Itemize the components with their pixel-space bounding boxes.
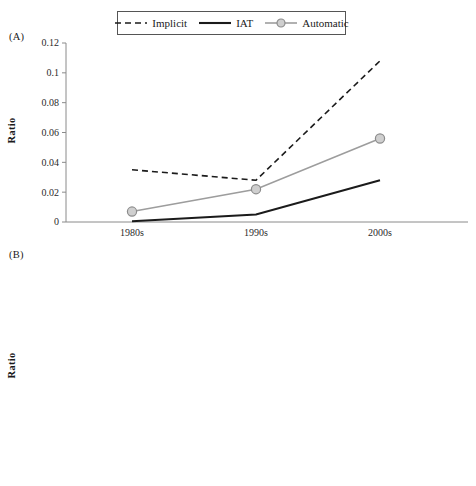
panel-a-y-axis-title: Ratio (6, 118, 17, 144)
panel-a-axes (66, 43, 468, 222)
data-point-marker-automatic (251, 185, 260, 194)
series-line-automatic (132, 138, 380, 211)
panel-a-x-tick-labels: 1980s1990s2000s (120, 227, 392, 238)
data-point-marker-automatic (127, 207, 136, 216)
x-tick-label: 1980s (120, 227, 144, 238)
panel-b-y-axis-title: Ratio (6, 353, 17, 379)
x-tick-label: 1990s (244, 227, 268, 238)
x-tick-label: 2000s (368, 227, 392, 238)
figure-caption-cropped (4, 477, 474, 486)
chart-panel-b: 00.010.020.030.040.050.060.07 1980s1990s… (0, 238, 476, 486)
y-tick-label: 0.08 (42, 97, 60, 108)
panel-a-series-group (127, 61, 384, 221)
y-tick-label: 0 (54, 216, 59, 227)
y-tick-label: 0.02 (42, 187, 60, 198)
chart-panel-a: 00.020.040.060.080.10.12 1980s1990s2000s (0, 0, 476, 248)
data-point-marker-automatic (375, 134, 384, 143)
y-tick-label: 0.1 (47, 67, 60, 78)
series-line-implicit (132, 61, 380, 180)
y-tick-label: 0.04 (42, 157, 60, 168)
y-tick-label: 0.12 (42, 37, 60, 48)
y-tick-label: 0.06 (42, 127, 60, 138)
figure-container: Implicit IAT Automatic (A) (B) 00.020.04… (0, 0, 476, 486)
panel-a-y-ticks: 00.020.040.060.080.10.12 (42, 37, 67, 227)
